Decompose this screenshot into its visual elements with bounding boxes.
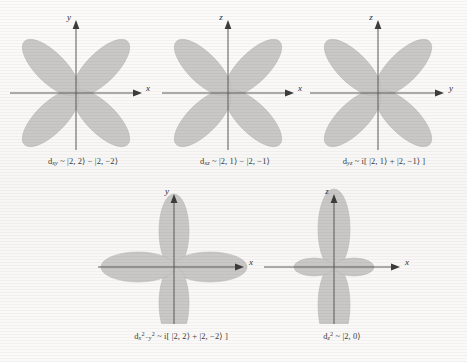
caption-dx2y2: dx2−y2 ~ i[ |2, 2⟩ + |2, −2⟩ ] (96, 330, 266, 341)
horizontal-axis-label-dyz: y (448, 83, 453, 93)
figure-sheet: y x dxy ~ |2, 2⟩ − |2, −2⟩ (0, 0, 467, 362)
horizontal-axis-label-dxy: x (145, 83, 150, 93)
vertical-axis-label-dx2y2: y (164, 186, 169, 196)
orbital-plot-dxz: z x (160, 8, 310, 150)
horizontal-axis-label-dx2y2: x (248, 257, 253, 267)
vertical-axis-label-dz2: z (324, 186, 329, 196)
vertical-axis-arrow-dyz (375, 20, 382, 29)
vertical-axis-label-dxz: z (218, 12, 223, 22)
vertical-axis-arrow-dxz (225, 20, 232, 29)
caption-dyz: dyz ~ i[ |2, 1⟩ + |2, −1⟩ ] (308, 156, 460, 166)
orbital-panel-dxz: z x dxz ~ |2, 1⟩ − |2, −1⟩ (160, 8, 310, 180)
orbital-plot-dyz: z y (308, 8, 458, 150)
orbital-plot-dz2: z x (262, 182, 422, 324)
orbital-panel-dyz: z y dyz ~ i[ |2, 1⟩ + |2, −1⟩ ] (308, 8, 460, 180)
caption-dxy: dxy ~ |2, 2⟩ − |2, −2⟩ (8, 156, 158, 166)
caption-dz2: dz2 ~ |2, 0⟩ (262, 330, 422, 341)
orbital-panel-dxy: y x dxy ~ |2, 2⟩ − |2, −2⟩ (8, 8, 158, 180)
vertical-axis-label-dxy: y (66, 12, 71, 22)
horizontal-axis-arrow-dz2 (391, 264, 400, 271)
vertical-axis-label-dyz: z (368, 12, 373, 22)
orbital-plot-dx2y2: y x (96, 182, 266, 324)
orbital-panel-dx2y2: y x dx2−y2 ~ i[ |2, 2⟩ + |2, −2⟩ ] (96, 182, 266, 354)
vertical-axis-arrow-dxy (73, 20, 80, 29)
horizontal-axis-label-dz2: x (404, 257, 409, 267)
caption-dxz: dxz ~ |2, 1⟩ − |2, −1⟩ (160, 156, 310, 166)
horizontal-axis-label-dxz: x (297, 83, 302, 93)
horizontal-axis-arrow-dxz (285, 90, 294, 97)
horizontal-axis-arrow-dxy (133, 90, 142, 97)
orbital-panel-dz2: z x dz2 ~ |2, 0⟩ (262, 182, 422, 354)
orbital-plot-dxy: y x (8, 8, 158, 150)
horizontal-axis-arrow-dyz (435, 90, 444, 97)
figure-page: y x dxy ~ |2, 2⟩ − |2, −2⟩ (0, 0, 467, 362)
